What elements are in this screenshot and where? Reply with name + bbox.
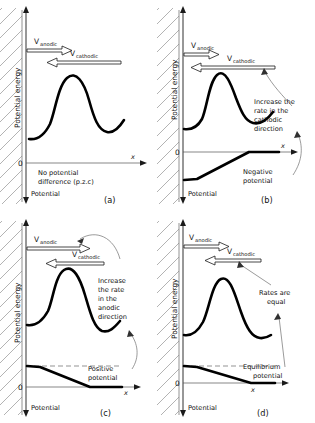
v-cathodic-arrow-c <box>46 259 104 268</box>
svg-text:anodic: anodic <box>98 304 120 312</box>
v-cathodic-label-d: V cathodic <box>227 247 255 257</box>
potential-leader-c <box>127 330 137 369</box>
svg-text:Rates are: Rates are <box>259 289 290 297</box>
note-line-1-a: No potential <box>38 169 79 177</box>
y-axis-label-down-a: Potential <box>31 190 60 198</box>
v-anodic-label-c: V anodic <box>34 235 57 245</box>
zero-label-b: 0 <box>175 148 180 157</box>
svg-text:anodic: anodic <box>195 237 212 243</box>
panel-caption-a: (a) <box>104 195 115 205</box>
svg-text:direction: direction <box>98 313 127 321</box>
svg-text:V: V <box>34 235 39 244</box>
svg-text:the rate: the rate <box>98 286 124 294</box>
vertical-axis-a <box>23 6 29 204</box>
potential-leader-d <box>274 313 285 367</box>
svg-text:cathodic: cathodic <box>233 251 255 257</box>
x-axis-label-d: x <box>250 386 255 394</box>
v-cathodic-arrow-d <box>205 256 261 265</box>
svg-text:cathodic: cathodic <box>254 116 282 124</box>
svg-text:V: V <box>72 250 77 259</box>
svg-text:equal: equal <box>267 298 285 306</box>
x-axis-a <box>26 160 147 166</box>
svg-text:anodic: anodic <box>40 239 57 245</box>
panel-caption-b: (b) <box>261 195 273 205</box>
x-axis-label-b: x <box>280 142 285 150</box>
x-axis-b <box>183 149 298 155</box>
svg-text:anodic: anodic <box>40 41 57 47</box>
svg-text:Negative: Negative <box>243 168 273 176</box>
zero-label-d: 0 <box>175 379 180 388</box>
potential-label-b: Negative potential <box>243 168 273 185</box>
x-axis-label-a: x <box>130 153 135 161</box>
vertical-axis-b <box>180 6 186 204</box>
svg-text:potential: potential <box>243 177 272 185</box>
note-line-2-a: difference (p.z.c) <box>38 178 94 186</box>
svg-text:potential: potential <box>253 372 282 380</box>
zero-label-c: 0 <box>18 383 23 392</box>
panel-caption-c: (c) <box>100 408 111 418</box>
svg-text:V: V <box>227 247 232 256</box>
svg-text:cathodic: cathodic <box>76 53 98 59</box>
x-axis-label-c: x <box>123 389 128 397</box>
v-cathodic-arrow-b <box>191 63 275 72</box>
svg-text:Positive: Positive <box>88 365 113 373</box>
energy-curve-a <box>29 75 124 139</box>
svg-text:direction: direction <box>254 125 283 133</box>
y-axis-label-down-b: Potential <box>188 190 217 198</box>
v-cathodic-label-a: V cathodic <box>70 49 98 59</box>
zero-label-a: 0 <box>18 159 23 168</box>
panel-d: 0 x Potential energy Potential V anodic … <box>157 211 314 422</box>
svg-text:V: V <box>34 37 39 46</box>
y-axis-label-up-c: Potential energy <box>13 282 22 343</box>
svg-text:cathodic: cathodic <box>233 58 255 64</box>
energy-curve-d <box>184 278 271 338</box>
annotation-increase-cathodic-b: Increase the rate in the cathodic direct… <box>254 98 295 133</box>
svg-text:V: V <box>70 49 75 58</box>
v-anodic-arrow-d <box>184 242 229 251</box>
v-anodic-label-d: V anodic <box>189 233 212 243</box>
v-anodic-arrow-c <box>27 244 90 253</box>
annotation-increase-anodic-c: Increase the rate in the anodic directio… <box>98 277 127 321</box>
svg-text:rate in the: rate in the <box>254 107 288 115</box>
v-cathodic-label-c: V cathodic <box>72 250 100 260</box>
potential-label-c: Positive potential <box>88 365 117 382</box>
vertical-axis-d <box>180 219 186 417</box>
panel-c: 0 x Potential energy Potential V anodic … <box>0 211 157 422</box>
v-anodic-arrow-a <box>27 46 72 55</box>
y-axis-label-up-d: Potential energy <box>170 278 179 339</box>
potential-label-d: Equilibrium potential <box>243 363 282 380</box>
svg-text:V: V <box>189 233 194 242</box>
v-anodic-arrow-b <box>184 50 219 59</box>
v-cathodic-label-b: V cathodic <box>227 54 255 64</box>
panel-b: 0 x Potential energy Potential V anodic … <box>157 0 314 211</box>
figure-potential-energy-diagrams: 0 x Potential energy Potential V anodic … <box>0 0 315 423</box>
svg-text:Increase: Increase <box>98 277 126 285</box>
annotation-rates-equal-d: Rates are equal <box>259 289 290 306</box>
panel-caption-d: (d) <box>257 408 269 418</box>
y-axis-label-down-d: Potential <box>188 404 217 412</box>
y-axis-label-up-b: Potential energy <box>170 59 179 120</box>
v-anodic-label-a: V anodic <box>34 37 57 47</box>
v-anodic-label-b: V anodic <box>191 41 214 51</box>
annotation-leader-rates-d <box>237 261 271 285</box>
svg-text:cathodic: cathodic <box>78 254 100 260</box>
v-cathodic-arrow-a <box>47 58 121 67</box>
y-axis-label-up-a: Potential energy <box>13 67 22 128</box>
svg-text:Increase the: Increase the <box>254 98 295 106</box>
svg-text:Equilibrium: Equilibrium <box>243 363 280 371</box>
svg-text:V: V <box>191 41 196 50</box>
svg-text:potential: potential <box>88 374 117 382</box>
svg-text:anodic: anodic <box>197 45 214 51</box>
svg-text:V: V <box>227 54 232 63</box>
y-axis-label-down-c: Potential <box>31 404 60 412</box>
svg-text:in the: in the <box>98 295 117 303</box>
panel-a: 0 x Potential energy Potential V anodic … <box>0 0 157 211</box>
